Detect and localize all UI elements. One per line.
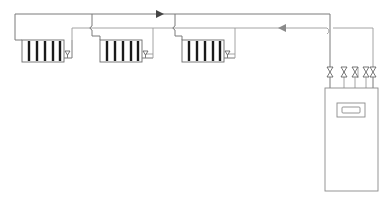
radiator-valve-icon (225, 51, 230, 58)
radiator-valve-icon (65, 51, 70, 58)
manifold-valves (327, 67, 376, 88)
valve-icon (341, 67, 347, 88)
valve-icon (363, 67, 369, 88)
valve-icon (370, 67, 376, 88)
radiator-2 (100, 40, 153, 62)
valve-icon (327, 67, 333, 88)
radiator-valve-icon (143, 51, 148, 58)
heating-system-diagram (0, 0, 390, 203)
radiator-1 (15, 40, 72, 62)
valve-icon (352, 67, 358, 88)
boiler-display-icon (342, 107, 360, 113)
return-arrow-icon (278, 24, 286, 32)
boiler (325, 88, 378, 191)
flow-arrow-icon (156, 10, 164, 18)
radiator-3 (182, 40, 235, 62)
